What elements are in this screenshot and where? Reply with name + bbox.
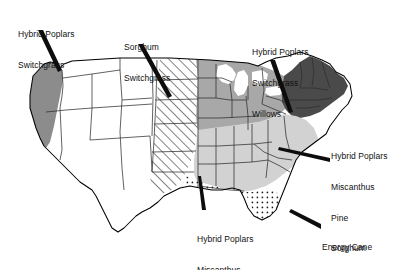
- callout-line: Switchgrass: [18, 60, 74, 70]
- callout-line: Miscanthus: [197, 265, 253, 270]
- callout-line: Switchgrass: [124, 73, 170, 83]
- callout-gulf-midsouth: Hybrid Poplars Miscanthus Sorghum Switch…: [197, 214, 253, 270]
- callout-line: Willows: [252, 109, 308, 119]
- figure-canvas: Hybrid Poplars Switchgrass Sorghum Switc…: [0, 0, 404, 270]
- callout-line: Switchgrass: [252, 78, 308, 88]
- callout-northwest: Hybrid Poplars Switchgrass: [18, 9, 74, 91]
- callout-great-plains: Sorghum Switchgrass: [124, 22, 170, 104]
- callout-northeast: Hybrid Poplars Switchgrass Willows: [252, 27, 308, 139]
- callout-florida: Energy Cane Eucalyptus Pine: [322, 222, 372, 270]
- callout-line: Hybrid Poplars: [331, 151, 387, 161]
- callout-line: Hybrid Poplars: [18, 29, 74, 39]
- callout-line: Sorghum: [124, 42, 170, 52]
- callout-line: Hybrid Poplars: [252, 47, 308, 57]
- callout-line: Energy Cane: [322, 242, 372, 252]
- callout-line: Hybrid Poplars: [197, 234, 253, 244]
- leader-florida: [289, 209, 321, 229]
- callout-line: Miscanthus: [331, 182, 387, 192]
